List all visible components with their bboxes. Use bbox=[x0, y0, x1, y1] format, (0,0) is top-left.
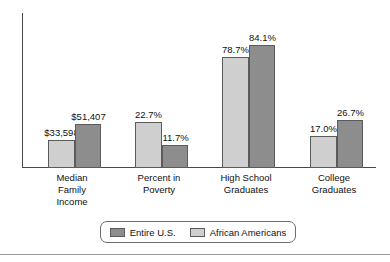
bar-value-entire-us-college-graduates: 26.7% bbox=[321, 107, 380, 118]
x-axis-label-median-family-income: Median Family Income bbox=[33, 172, 111, 208]
bar-group-high-school-graduates: 78.7% 84.1% bbox=[222, 13, 300, 168]
bar-value-entire-us-median-family-income: $51,407 bbox=[53, 111, 124, 122]
legend-item-african-americans[interactable]: African Americans bbox=[190, 227, 287, 238]
bar-value-entire-us-percent-in-poverty: 11.7% bbox=[146, 132, 205, 143]
bar-entire-us-median-family-income[interactable] bbox=[75, 124, 101, 168]
legend-item-entire-us[interactable]: Entire U.S. bbox=[110, 227, 176, 238]
x-axis-label-high-school-graduates: High School Graduates bbox=[207, 172, 285, 196]
legend-swatch-icon-african-americans bbox=[190, 228, 205, 237]
plot-area: $33,598 $51,407 22.7% 11.7% 78.7% 84.1% … bbox=[22, 13, 376, 168]
legend-label-entire-us: Entire U.S. bbox=[130, 227, 176, 238]
bar-group-college-graduates: 17.0% 26.7% bbox=[310, 13, 388, 168]
bar-entire-us-percent-in-poverty[interactable] bbox=[162, 145, 188, 168]
bar-entire-us-high-school-graduates[interactable] bbox=[249, 45, 275, 168]
bar-group-percent-in-poverty: 22.7% 11.7% bbox=[135, 13, 213, 168]
bar-value-african-americans-percent-in-poverty: 22.7% bbox=[119, 109, 178, 120]
bar-african-americans-median-family-income[interactable] bbox=[48, 140, 75, 168]
bar-african-americans-percent-in-poverty[interactable] bbox=[135, 122, 162, 168]
bar-chart: $33,598 $51,407 22.7% 11.7% 78.7% 84.1% … bbox=[0, 0, 390, 262]
bar-african-americans-high-school-graduates[interactable] bbox=[222, 57, 249, 168]
bar-value-entire-us-high-school-graduates: 84.1% bbox=[233, 32, 292, 43]
legend-label-african-americans: African Americans bbox=[210, 227, 287, 238]
chart-legend: Entire U.S. African Americans bbox=[100, 221, 296, 243]
legend-swatch-icon-entire-us bbox=[110, 228, 125, 237]
x-axis-label-college-graduates: College Graduates bbox=[295, 172, 373, 196]
bottom-divider bbox=[0, 254, 390, 255]
bar-entire-us-college-graduates[interactable] bbox=[337, 120, 363, 168]
bar-african-americans-college-graduates[interactable] bbox=[310, 136, 337, 168]
x-axis-label-percent-in-poverty: Percent in Poverty bbox=[120, 172, 198, 196]
bar-group-median-family-income: $33,598 $51,407 bbox=[48, 13, 126, 168]
